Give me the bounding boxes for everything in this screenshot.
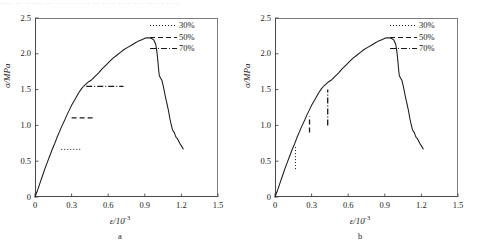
y-axis-tick-label: 1.5 <box>5 85 31 94</box>
x-axis-tick-label: 0.6 <box>96 201 120 210</box>
panel-caption-b: b <box>240 231 480 241</box>
y-axis-tick-label: 0.5 <box>5 157 31 166</box>
x-axis-tick-label: 0.6 <box>336 201 360 210</box>
legend-a: 30% 50% 70% <box>150 21 216 56</box>
legend-label: 70% <box>419 44 435 53</box>
y-axis-tick-label: 1.5 <box>245 85 271 94</box>
legend-swatch-dotted-icon <box>390 22 417 29</box>
x-axis-label-a: ε/10-3 <box>0 214 240 226</box>
legend-swatch-dashdot-icon <box>150 45 177 52</box>
y-axis-tick-label: 2.5 <box>245 14 271 23</box>
y-axis-tick-label: 0 <box>5 193 31 202</box>
legend-label: 50% <box>419 33 435 42</box>
y-axis-tick-label: 2.5 <box>5 14 31 23</box>
legend-label: 30% <box>179 21 195 30</box>
legend-item: 70% <box>390 44 456 54</box>
legend-item: 30% <box>150 21 216 31</box>
legend-label: 30% <box>419 21 435 30</box>
panel-caption-a: a <box>0 231 240 241</box>
x-axis-tick-label: 1.2 <box>409 201 433 210</box>
y-axis-tick-label: 1.0 <box>5 121 31 130</box>
legend-swatch-dashdot-icon <box>390 45 417 52</box>
y-axis-tick-label: 2.0 <box>5 49 31 58</box>
x-axis-tick-label: 0.9 <box>373 201 397 210</box>
legend-item: 30% <box>390 21 456 31</box>
legend-label: 50% <box>179 33 195 42</box>
y-axis-tick-label: 1.0 <box>245 121 271 130</box>
y-axis-tick-label: 0.5 <box>245 157 271 166</box>
x-axis-tick-label: 1.2 <box>169 201 193 210</box>
legend-b: 30% 50% 70% <box>390 21 456 56</box>
legend-item: 50% <box>150 33 216 43</box>
chart-panel-a: σ/MPa ε/10-3 a 30% 50% 70% 00.51.01.52.0… <box>0 0 240 249</box>
legend-swatch-dotted-icon <box>150 22 177 29</box>
x-axis-tick-label: 1.5 <box>206 201 230 210</box>
legend-label: 70% <box>179 44 195 53</box>
legend-item: 70% <box>150 44 216 54</box>
x-axis-tick-label: 0 <box>23 201 47 210</box>
y-axis-tick-label: 2.0 <box>245 49 271 58</box>
y-axis-tick-label: 0 <box>245 193 271 202</box>
x-axis-tick-label: 0 <box>263 201 287 210</box>
legend-swatch-dashed-icon <box>150 34 177 41</box>
legend-item: 50% <box>390 33 456 43</box>
x-axis-tick-label: 0.3 <box>300 201 324 210</box>
figure-stress-strain-pair: σ/MPa ε/10-3 a 30% 50% 70% 00.51.01.52.0… <box>0 0 480 249</box>
chart-panel-b: σ/MPa ε/10-3 b 30% 50% 70% 00.51.01.52.0… <box>240 0 480 249</box>
x-axis-tick-label: 0.9 <box>133 201 157 210</box>
legend-swatch-dashed-icon <box>390 34 417 41</box>
x-axis-label-b: ε/10-3 <box>240 214 480 226</box>
x-axis-tick-label: 0.3 <box>60 201 84 210</box>
x-axis-tick-label: 1.5 <box>446 201 470 210</box>
